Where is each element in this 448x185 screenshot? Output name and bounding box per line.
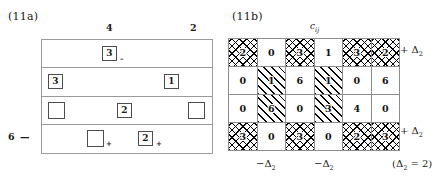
matrix-cell-value: 6 — [382, 75, 389, 86]
matrix-cell[interactable]: 4 — [343, 95, 372, 123]
matrix-title-subscript: ij — [315, 26, 319, 34]
tableau-cell-box[interactable]: 1 — [164, 74, 179, 89]
matrix-cell[interactable]: 1 — [257, 67, 286, 95]
bottom-note-first-subscript: 2 — [272, 164, 276, 172]
side-note-top-text: + Δ — [400, 44, 419, 55]
matrix-cell[interactable]: 1 — [314, 67, 343, 95]
matrix-cell-value: 0 — [239, 103, 246, 114]
matrix-cell[interactable]: 0 — [314, 123, 343, 151]
matrix-cell-value: 0 — [353, 75, 360, 86]
matrix-cell-value: 0 — [268, 47, 275, 58]
tableau-cell-sign: + — [106, 140, 112, 147]
matrix-cell[interactable]: 6 — [371, 67, 400, 95]
panel-a-label: (11a) — [8, 10, 38, 23]
matrix-cell-value: 0 — [239, 75, 246, 86]
matrix-cell-value: 6 — [296, 75, 303, 86]
matrix-cell-value: 2 — [382, 47, 389, 58]
bottom-note-first: −Δ2 — [256, 158, 276, 172]
matrix-row: 0 1 6 1 0 6 — [229, 67, 400, 95]
matrix-cell[interactable]: 2 — [371, 39, 400, 67]
matrix-cell[interactable]: 3 — [286, 39, 315, 67]
tableau-cell-sign: – — [120, 55, 124, 62]
matrix-cell-value: 0 — [268, 131, 275, 142]
tableau-cell-sign: + — [156, 140, 162, 147]
tableau-cell-box[interactable] — [87, 130, 104, 147]
matrix-cell[interactable]: 2 — [343, 123, 372, 151]
tableau-cell-box[interactable]: 3 — [102, 46, 117, 61]
matrix-cell[interactable]: 3 — [314, 95, 343, 123]
tableau-grid: 3 – 3 1 2 + 2 + — [41, 39, 213, 154]
matrix-cell[interactable]: 3 — [286, 123, 315, 151]
cost-matrix: 2 0 3 1 3 2 0 1 6 1 0 6 0 6 — [228, 38, 400, 151]
matrix-cell[interactable]: 0 — [229, 95, 258, 123]
matrix-cell[interactable]: 1 — [314, 39, 343, 67]
matrix-cell[interactable]: 0 — [229, 67, 258, 95]
matrix-cell-value: 3 — [296, 47, 303, 58]
bottom-note-second: −Δ2 — [314, 158, 334, 172]
tableau-row: 3 – — [42, 40, 212, 68]
matrix-cell[interactable]: 6 — [286, 67, 315, 95]
side-note-bottom-subscript: 2 — [419, 131, 423, 139]
panel-11a: (11a) 4 2 6 — 3 – 3 1 2 + 2 + — [0, 0, 224, 185]
matrix-cell-value: 4 — [353, 103, 360, 114]
matrix-cell-value: 0 — [382, 103, 389, 114]
matrix-cell-value: 6 — [268, 103, 275, 114]
bottom-note-second-text: −Δ — [314, 158, 330, 169]
matrix-cell-value: 1 — [325, 47, 332, 58]
side-note-bottom: + Δ2 — [400, 125, 423, 139]
matrix-row: 2 0 3 1 3 2 — [229, 39, 400, 67]
matrix-cell[interactable]: 6 — [257, 95, 286, 123]
matrix-cell[interactable]: 0 — [343, 67, 372, 95]
matrix-cell-value: 3 — [382, 131, 389, 142]
matrix-cell-value: 3 — [325, 103, 332, 114]
matrix-cell[interactable]: 0 — [286, 95, 315, 123]
tableau-cell-box[interactable]: 2 — [117, 103, 132, 118]
tableau-cell-box[interactable]: 2 — [138, 131, 153, 146]
matrix-title: cij — [310, 21, 319, 34]
tableau-row: 2 — [42, 97, 212, 125]
side-note-top: + Δ2 — [400, 44, 423, 58]
matrix-cell-value: 2 — [239, 47, 246, 58]
tableau-cell-box[interactable] — [48, 102, 65, 119]
matrix-cell-value: 1 — [325, 75, 332, 86]
matrix-cell[interactable]: 3 — [371, 123, 400, 151]
side-note-top-subscript: 2 — [419, 50, 423, 58]
bottom-note-first-text: −Δ — [256, 158, 272, 169]
matrix-cell-value: 0 — [325, 131, 332, 142]
column-header-left: 4 — [106, 22, 113, 33]
matrix-cell-value: 3 — [239, 131, 246, 142]
matrix-cell[interactable]: 0 — [371, 95, 400, 123]
matrix-cell[interactable]: 3 — [229, 123, 258, 151]
matrix-row: 0 6 0 3 4 0 — [229, 95, 400, 123]
matrix-cell[interactable]: 0 — [257, 123, 286, 151]
tableau-row: 3 1 — [42, 68, 212, 96]
matrix-cell-value: 3 — [296, 131, 303, 142]
side-note-bottom-text: + Δ — [400, 125, 419, 136]
matrix-cell-value: 1 — [268, 75, 275, 86]
matrix-cell[interactable]: 3 — [343, 39, 372, 67]
tableau-cell-box[interactable]: 3 — [48, 74, 63, 89]
tableau-row: + 2 + — [42, 125, 212, 153]
figure-root: (11a) 4 2 6 — 3 – 3 1 2 + 2 + — [0, 0, 448, 185]
row-header-bottom: 6 — — [8, 131, 30, 142]
bottom-note-delta-open: (Δ — [392, 158, 403, 169]
matrix-cell[interactable]: 0 — [257, 39, 286, 67]
bottom-note-delta-value: (Δ2 = 2) — [392, 158, 432, 172]
matrix-cell[interactable]: 2 — [229, 39, 258, 67]
bottom-note-delta-tail: = 2) — [407, 158, 432, 169]
bottom-note-second-subscript: 2 — [330, 164, 334, 172]
panel-b-label: (11b) — [232, 10, 263, 23]
matrix-cell-value: 0 — [296, 103, 303, 114]
matrix-cell-value: 3 — [353, 47, 360, 58]
matrix-cell-value: 2 — [353, 131, 360, 142]
column-header-right: 2 — [190, 22, 197, 33]
panel-11b: (11b) cij 2 0 3 1 3 2 0 1 6 1 0 6 — [224, 0, 448, 185]
matrix-row: 3 0 3 0 2 3 — [229, 123, 400, 151]
tableau-cell-box[interactable] — [188, 102, 205, 119]
